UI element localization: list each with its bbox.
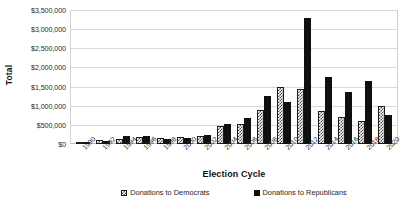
x-axis-tick: 2004 xyxy=(214,145,234,171)
y-axis-title-label: Total xyxy=(4,65,14,86)
bar-donations-to-democrats xyxy=(217,126,224,144)
bar-group xyxy=(335,10,355,144)
bar-donations-to-democrats xyxy=(116,139,123,144)
bar-donations-to-republicans xyxy=(365,81,372,144)
x-axis-tick: 1998 xyxy=(153,145,173,171)
bar-group xyxy=(375,10,395,144)
y-axis-tick-label: $1,500,000 xyxy=(31,82,66,91)
x-axis-tick: 2014 xyxy=(315,145,335,171)
y-axis-tick-label: $2,000,000 xyxy=(31,63,66,72)
bar-donations-to-democrats xyxy=(177,137,184,144)
legend-swatch-democrats-icon xyxy=(121,190,127,196)
bar-group xyxy=(133,10,153,144)
bar-group xyxy=(274,10,294,144)
bar-group xyxy=(154,10,174,144)
x-axis-tick: 1994 xyxy=(113,145,133,171)
x-axis-tick: 2008 xyxy=(254,145,274,171)
bar-donations-to-republicans xyxy=(284,102,291,144)
bar-donations-to-democrats xyxy=(297,89,304,145)
legend-swatch-republicans-icon xyxy=(254,190,260,196)
bar-group xyxy=(355,10,375,144)
bar-group xyxy=(73,10,93,144)
bar-donations-to-republicans xyxy=(304,18,311,144)
bar-donations-to-republicans xyxy=(325,77,332,144)
x-axis-tick: 2012 xyxy=(295,145,315,171)
bar-group xyxy=(294,10,314,144)
x-axis-tick: 1990 xyxy=(72,145,92,171)
chart-legend: Donations to DemocratsDonations to Repub… xyxy=(70,188,398,197)
bar-group xyxy=(214,10,234,144)
bar-donations-to-republicans xyxy=(345,92,352,144)
x-axis-tick: 2016 xyxy=(335,145,355,171)
x-axis-tick-labels: 1990199219941996199820002002200420062008… xyxy=(70,145,398,171)
bar-chart: Total $3,500,000$3,000,000$2,500,000$2,0… xyxy=(0,0,406,210)
bar-donations-to-democrats xyxy=(277,87,284,144)
bar-group xyxy=(234,10,254,144)
x-axis-title: Election Cycle xyxy=(70,169,398,179)
y-axis-tick-label: $2,500,000 xyxy=(31,44,66,53)
bar-group xyxy=(194,10,214,144)
y-axis-tick-label: $500,000 xyxy=(37,120,66,129)
bar-group xyxy=(174,10,194,144)
legend-item-label: Donations to Democrats xyxy=(130,188,209,197)
bar-donations-to-democrats xyxy=(157,138,164,145)
x-axis-tick: 2010 xyxy=(275,145,295,171)
y-axis-tick-label: $1,000,000 xyxy=(31,101,66,110)
bar-donations-to-republicans xyxy=(264,96,271,144)
x-axis-tick: 2000 xyxy=(173,145,193,171)
x-axis-tick: 1992 xyxy=(92,145,112,171)
y-axis-tick-label: $0 xyxy=(58,140,66,149)
bars-layer xyxy=(71,10,397,144)
bar-group xyxy=(113,10,133,144)
legend-item[interactable]: Donations to Republicans xyxy=(254,188,347,197)
bar-donations-to-democrats xyxy=(237,124,244,144)
x-axis-tick: 2018 xyxy=(356,145,376,171)
y-axis-tick-label: $3,500,000 xyxy=(31,6,66,15)
plot-area xyxy=(70,10,398,144)
legend-item-label: Donations to Republicans xyxy=(263,188,347,197)
x-axis-tick: 2002 xyxy=(194,145,214,171)
x-axis-tick: 1996 xyxy=(133,145,153,171)
x-axis-tick: 2020 xyxy=(376,145,396,171)
y-axis-tick-labels: $3,500,000$3,000,000$2,500,000$2,000,000… xyxy=(14,10,68,144)
bar-group xyxy=(315,10,335,144)
x-axis-tick: 2006 xyxy=(234,145,254,171)
bar-group xyxy=(254,10,274,144)
legend-item[interactable]: Donations to Democrats xyxy=(121,188,209,197)
y-axis-tick-label: $3,000,000 xyxy=(31,25,66,34)
bar-group xyxy=(93,10,113,144)
